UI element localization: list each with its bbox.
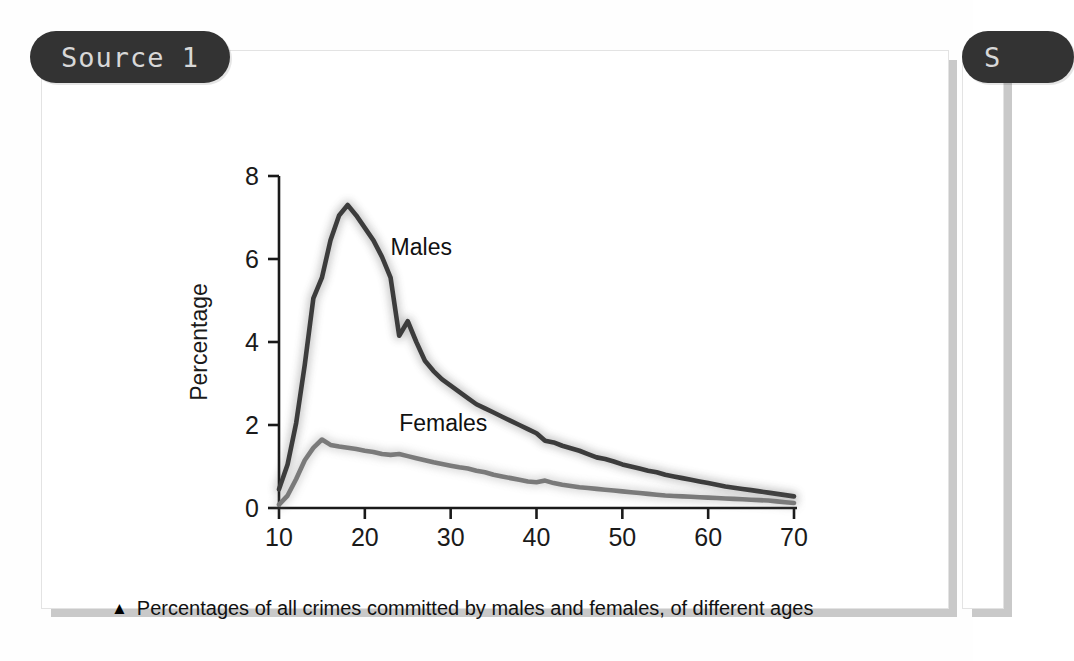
source-2-badge: S — [962, 31, 1074, 83]
source-1-panel: 1020304050607002468AgePercentageMalesFem… — [41, 50, 949, 609]
x-tick-label: 70 — [780, 523, 808, 551]
y-tick-label: 4 — [245, 328, 259, 356]
chart-svg: 1020304050607002468AgePercentageMalesFem… — [83, 101, 989, 571]
x-axis-title: Age — [516, 569, 557, 571]
series-annotation-females: Females — [399, 410, 487, 436]
source-1-badge: Source 1 — [30, 31, 230, 83]
source-2-panel — [962, 50, 1004, 609]
caption-label: Percentages of all crimes committed by m… — [137, 597, 814, 620]
figure-caption: ▲ Percentages of all crimes committed by… — [83, 586, 989, 631]
x-tick-label: 40 — [523, 523, 551, 551]
x-tick-label: 30 — [437, 523, 465, 551]
crime-by-age-chart: 1020304050607002468AgePercentageMalesFem… — [83, 101, 989, 571]
y-tick-label: 8 — [245, 162, 259, 190]
y-tick-label: 6 — [245, 245, 259, 273]
x-tick-label: 20 — [351, 523, 379, 551]
y-tick-label: 2 — [245, 411, 259, 439]
x-tick-label: 10 — [265, 523, 293, 551]
x-tick-label: 50 — [608, 523, 636, 551]
y-axis-title: Percentage — [186, 283, 212, 401]
y-tick-label: 0 — [245, 494, 259, 522]
caption-triangle-icon: ▲ — [111, 600, 128, 617]
x-tick-label: 60 — [694, 523, 722, 551]
series-annotation-males: Males — [391, 234, 452, 260]
